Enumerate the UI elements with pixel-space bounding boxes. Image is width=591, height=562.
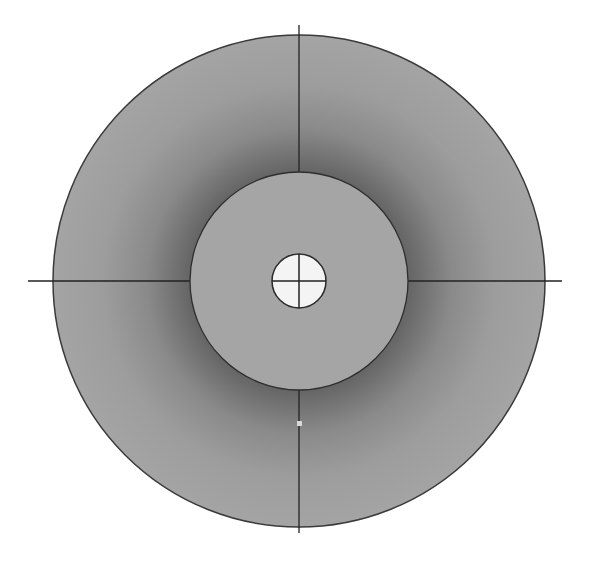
concentric-circle-diagram — [0, 0, 591, 562]
marker-dot — [297, 421, 302, 426]
